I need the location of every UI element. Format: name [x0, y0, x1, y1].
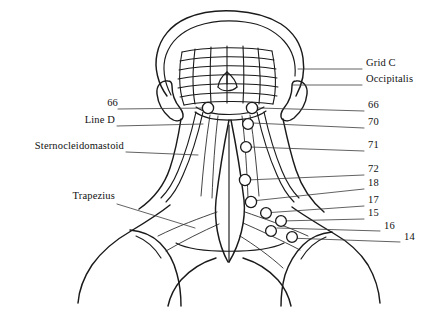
scm-right-anterior: [257, 112, 294, 202]
trapezius-right-border: [292, 207, 380, 303]
nuchae-diamond-right: [229, 120, 244, 262]
right-deltoid-crease: [301, 237, 326, 259]
marker-66-left: [202, 102, 213, 113]
grid-c-mesh: [178, 46, 278, 105]
marker-14: [287, 232, 298, 243]
neck-outline-group: [139, 119, 324, 212]
label-point-66-right: 66: [368, 100, 379, 111]
anatomy-figure: Grid C Occipitalis 66 70 71 72 18 17 15 …: [0, 0, 431, 311]
splenius-left-1: [201, 115, 210, 196]
label-point-66-left: 66: [60, 98, 118, 109]
leader-66-left: [118, 108, 208, 109]
label-point-15: 15: [368, 208, 379, 219]
label-grid-c: Grid C: [366, 58, 396, 69]
marker-17: [261, 208, 272, 219]
nuchae-diamond-left: [216, 120, 230, 262]
label-point-70: 70: [368, 117, 379, 128]
anatomy-drawing: [0, 0, 431, 311]
leader-line-d: [117, 124, 203, 126]
right-ear: [281, 81, 307, 121]
sternocleidomastoid-group: [161, 112, 299, 202]
marker-18: [245, 196, 256, 207]
trapezius-left-border: [78, 205, 170, 303]
label-point-16: 16: [384, 221, 395, 232]
label-trapezius: Trapezius: [42, 191, 115, 202]
neck-right-edge: [283, 119, 324, 212]
marker-15: [276, 216, 287, 227]
marker-16: [266, 226, 277, 237]
leader-17: [264, 206, 364, 213]
label-point-14: 14: [404, 232, 415, 243]
left-deltoid-crease: [136, 236, 161, 258]
leader-18: [252, 189, 364, 201]
leader-70: [252, 123, 364, 128]
upper-back-contour: [176, 243, 284, 251]
label-occipitalis: Occipitalis: [366, 74, 413, 85]
left-deltoid: [130, 230, 181, 306]
splenius-left-2: [212, 116, 218, 198]
label-line-d: Line D: [40, 115, 115, 126]
label-point-72: 72: [368, 164, 379, 175]
scm-left-anterior: [166, 112, 203, 202]
trapezius-lower-left: [168, 258, 216, 306]
leader-14: [288, 238, 400, 242]
ligamentum-nuchae: [216, 120, 245, 262]
label-point-71: 71: [368, 140, 379, 151]
leader-66-right: [258, 108, 364, 111]
marker-66-right: [246, 102, 257, 113]
leader-sternocleidomastoid: [126, 152, 198, 155]
marker-72: [239, 174, 250, 185]
leader-15: [281, 219, 364, 221]
leader-72: [247, 175, 364, 180]
marker-71: [241, 142, 252, 153]
leader-trapezius: [117, 204, 195, 228]
marker-70: [243, 119, 254, 130]
right-deltoid: [281, 232, 332, 306]
label-sternocleidomastoid: Sternocleidomastoid: [6, 141, 124, 152]
label-point-17: 17: [368, 195, 379, 206]
label-point-18: 18: [368, 178, 379, 189]
neck-left-edge: [139, 119, 181, 209]
